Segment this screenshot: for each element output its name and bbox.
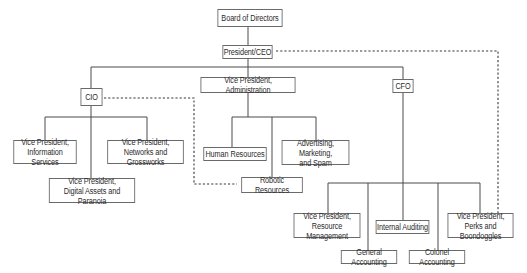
node-vp-information-services: Vice President, Information Services [13, 140, 76, 164]
node-cio: CIO [81, 88, 103, 106]
node-internal-auditing: Internal Auditing [376, 220, 430, 234]
node-vp-resource-management: Vice President, Resource Management [294, 213, 361, 238]
node-vp-perks-boondoggles: Vice President, Perks and Boondoggles [448, 213, 514, 238]
node-robotic-resources: Robotic Resources [241, 177, 303, 193]
node-general-accounting: General Accounting [341, 250, 397, 264]
node-cfo: CFO [392, 79, 413, 93]
node-colonel-accounting: Colonel Accounting [409, 250, 465, 264]
node-vp-administration: Vice President, Administration [200, 77, 295, 93]
node-president-ceo: President/CEO [222, 45, 272, 59]
node-human-resources: Human Resources [203, 147, 266, 161]
node-board-of-directors: Board of Directors [217, 9, 282, 27]
org-chart-diagram: Board of Directors President/CEO CIO Vic… [0, 0, 527, 273]
node-vp-networks-grossworks: Vice President, Networks and Grossworks [107, 140, 184, 164]
node-advertising-marketing-spam: Advertising, Marketing, and Spam [282, 140, 350, 165]
node-vp-digital-assets: Vice President, Digital Assets and Paran… [49, 178, 135, 203]
